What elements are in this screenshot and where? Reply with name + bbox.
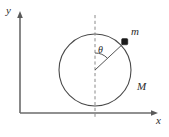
- point-mass-label: m: [131, 26, 139, 37]
- x-axis-label: x: [156, 115, 161, 126]
- hoop-mass-label: M: [137, 81, 146, 92]
- physics-diagram-figure: y x m M θ: [0, 0, 169, 137]
- theta-angle-label: θ: [98, 45, 103, 55]
- y-axis-label: y: [6, 5, 11, 16]
- diagram-canvas: [0, 0, 169, 137]
- y-axis-arrow-icon: [17, 11, 23, 18]
- point-mass-marker-icon: [122, 39, 128, 45]
